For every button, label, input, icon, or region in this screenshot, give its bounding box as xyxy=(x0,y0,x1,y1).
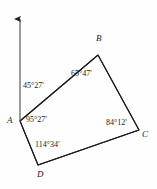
angle-label-a: 95°27' xyxy=(26,116,47,124)
caption-remnant: —— — — xyxy=(33,184,128,186)
angle-label-north-bearing: 45°27' xyxy=(23,82,44,90)
angle-label-c: 84°12' xyxy=(106,119,127,127)
vertex-label-a: A xyxy=(7,116,13,125)
caption-remnant-text: —— — — xyxy=(33,184,128,186)
vertex-label-c: C xyxy=(142,130,148,139)
figure-canvas xyxy=(0,0,157,189)
vertex-label-d: D xyxy=(37,170,44,179)
angle-label-b: 65°47' xyxy=(71,70,92,78)
angle-label-d: 114°34' xyxy=(35,141,59,149)
geometry-figure: A B C D 45°27' 95°27' 65°47' 84°12' 114°… xyxy=(0,0,157,189)
vertex-label-b: B xyxy=(96,34,102,43)
